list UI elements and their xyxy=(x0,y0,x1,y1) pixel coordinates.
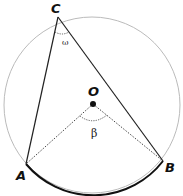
angle-arc-omega xyxy=(55,32,69,34)
angle-arc-beta xyxy=(80,115,107,121)
segment-cb xyxy=(58,17,163,161)
label-a: A xyxy=(15,168,26,183)
label-beta: β xyxy=(91,127,97,140)
label-b: B xyxy=(165,160,175,175)
label-omega: ω xyxy=(62,38,69,47)
radius-oa xyxy=(26,104,93,164)
segment-ca xyxy=(26,17,58,164)
label-o: O xyxy=(88,84,99,99)
center-point-o xyxy=(90,101,96,107)
label-c: C xyxy=(51,1,61,16)
arc-ab xyxy=(26,161,163,195)
circle-diagram: C O A B ω β xyxy=(0,0,183,196)
